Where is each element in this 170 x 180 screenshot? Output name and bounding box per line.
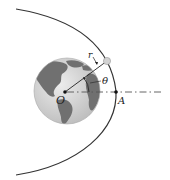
angle-label: θ <box>102 75 108 86</box>
radius-label: r <box>88 50 93 60</box>
point-a <box>114 90 118 94</box>
radius-arrow-icon <box>95 62 98 65</box>
earth-globe <box>34 58 100 124</box>
satellite <box>103 57 110 64</box>
origin-label: O <box>56 94 65 107</box>
point-a-label: A <box>117 95 125 106</box>
orbit-diagram: O A r θ <box>0 0 170 180</box>
